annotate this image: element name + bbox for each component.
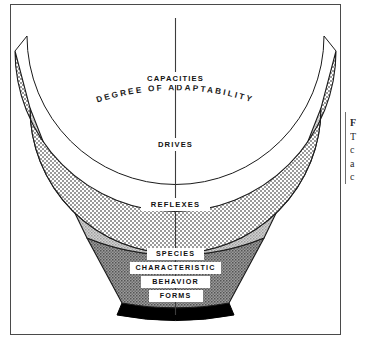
label-species-line-4: FORMS (160, 291, 192, 300)
adaptability-fan-diagram: DEGREE OF ADAPTABILITY CAPACITIES DRIVES… (10, 4, 341, 335)
side-caption-line-5: c (350, 170, 366, 184)
side-caption-line-4: a (350, 157, 366, 171)
label-reflexes-text: REFLEXES (151, 200, 200, 209)
side-caption-line-1: F (350, 116, 366, 130)
figure-root: DEGREE OF ADAPTABILITY CAPACITIES DRIVES… (0, 0, 366, 351)
label-drives-text: DRIVES (158, 140, 193, 149)
caption-divider-rule (345, 112, 346, 184)
label-drives: DRIVES (146, 138, 205, 151)
side-caption-line-3: c (350, 143, 366, 157)
label-reflexes: REFLEXES (141, 198, 210, 211)
side-caption-line-2: T (350, 130, 366, 144)
label-species-line-1: SPECIES (156, 249, 195, 258)
label-species-line-2: CHARACTERISTIC (136, 263, 216, 272)
label-capacities: CAPACITIES (136, 72, 215, 85)
label-capacities-text: CAPACITIES (147, 74, 204, 83)
label-species-line-3: BEHAVIOR (152, 277, 199, 286)
side-caption: F T c a c (350, 116, 366, 184)
